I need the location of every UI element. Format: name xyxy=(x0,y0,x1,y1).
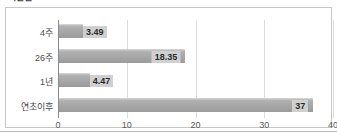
bar-row: 4주3.49 xyxy=(58,20,333,44)
chart-screenshot: 기간별 4주3.4926주18.351년4.47연초이후37 010203040 xyxy=(0,0,337,133)
clipped-chart-title: 기간별 xyxy=(8,0,68,2)
value-label-1: 18.35 xyxy=(152,51,181,63)
bar-3[interactable] xyxy=(59,98,313,112)
x-tick-10: 10 xyxy=(122,120,132,130)
gridline-40 xyxy=(333,20,334,118)
x-tick-0: 0 xyxy=(55,120,60,130)
plot-frame: 4주3.4926주18.351년4.47연초이후37 010203040 xyxy=(5,7,332,128)
x-tick-20: 20 xyxy=(190,120,200,130)
value-label-3: 37 xyxy=(292,100,308,112)
value-label-2: 4.47 xyxy=(90,75,114,87)
category-label-2: 1년 xyxy=(40,75,53,88)
category-label-0: 4주 xyxy=(40,26,53,39)
bar-row: 연초이후37 xyxy=(58,94,333,118)
bar-rows: 4주3.4926주18.351년4.47연초이후37 xyxy=(58,20,333,118)
bar-0[interactable] xyxy=(59,24,83,38)
x-tick-30: 30 xyxy=(259,120,269,130)
bar-row: 26주18.35 xyxy=(58,45,333,69)
bar-2[interactable] xyxy=(59,73,90,87)
plot-area: 4주3.4926주18.351년4.47연초이후37 xyxy=(58,20,333,118)
category-label-1: 26주 xyxy=(35,50,53,63)
x-tick-40: 40 xyxy=(328,120,337,130)
category-label-3: 연초이후 xyxy=(21,99,53,112)
bottom-divider xyxy=(0,131,337,132)
bar-row: 1년4.47 xyxy=(58,69,333,93)
value-label-0: 3.49 xyxy=(83,26,107,38)
